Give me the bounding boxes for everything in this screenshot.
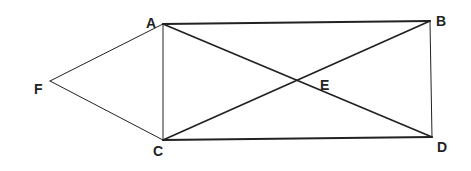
segment-cb (163, 21, 430, 140)
segment-cd (163, 137, 432, 140)
segment-ab (163, 21, 430, 24)
label-c: C (153, 143, 163, 159)
segment-fc (50, 81, 163, 140)
segment-bd (430, 21, 432, 137)
label-f: F (34, 81, 43, 97)
segment-fa (50, 24, 163, 81)
label-a: A (146, 15, 156, 31)
label-d: D (437, 139, 447, 155)
geometry-diagram: A B C D E F (0, 0, 471, 171)
label-b: B (436, 13, 446, 29)
label-e: E (320, 77, 329, 93)
